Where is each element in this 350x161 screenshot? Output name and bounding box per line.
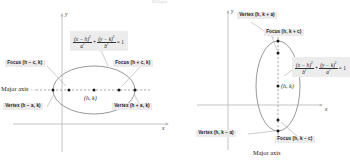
right-eq-term2: (y − k)2 a2 [319,62,337,75]
left-eq-term1: (x − h)2 a2 [73,36,92,49]
leader-focus-left [47,66,66,86]
leader-equation-right [284,70,292,76]
left-eq-term1-denominator: a2 [73,43,92,49]
top-vertex-point [277,40,280,43]
top-focus-point [277,52,280,55]
right-vertex-label: Vertex (h + a, k) [112,103,152,110]
left-vertex-point [52,89,55,92]
leader-vertex-left [47,94,54,107]
left-y-axis-label: y [65,12,67,18]
left-eq-term2: (y − k)2 b2 [97,36,115,49]
right-center-point [277,85,280,88]
top-focus-label: Focus (h, k + c) [264,29,304,36]
bottom-vertex-label: Vertex (h, k − a) [196,130,236,137]
right-y-axis-label: y [231,9,233,15]
left-focus-point [68,89,71,92]
leader-focus-top [272,37,277,50]
right-eq-equals: = 1 [338,66,347,71]
left-y-axis-arrow [60,13,63,16]
left-focus-label: Focus (h − c, k) [5,60,45,67]
top-clipped-heading: Ellipse [152,0,168,4]
top-vertex-label: Vertex (h, k + a) [237,12,277,19]
right-eq-term2-denominator: a2 [319,69,337,75]
bottom-focus-label: Focus (h, k − c) [275,136,315,143]
right-eq-term1-denominator: b2 [295,69,314,75]
right-x-axis-arrow [320,103,323,106]
right-vertex-point [134,89,137,92]
left-x-axis-label: x [162,126,164,132]
bottom-vertex-point [277,130,280,133]
leader-vertex-bottom [248,131,275,134]
right-eq-term1: (x − h)2 b2 [295,62,314,75]
left-eq-term2-denominator: b2 [97,43,115,49]
left-ellipse-equation: (x − h)2 a2 + (y − k)2 b2 = 1 [70,31,128,51]
left-major-axis-label: Major axis [1,86,29,92]
left-eq-equals: = 1 [116,40,125,45]
right-x-axis-label: x [325,107,327,113]
right-leader-lines [248,22,298,137]
right-center-label: (h, k) [281,83,294,89]
left-center-label: (h, k) [84,95,97,101]
bottom-focus-point [277,119,280,122]
right-focus-point [118,89,121,92]
right-major-axis-label: Major axis [253,150,281,156]
left-center-point [93,89,96,92]
right-y-axis-arrow [226,10,229,13]
left-vertex-label: Vertex (h − a, k) [3,103,43,110]
left-x-axis-arrow [166,122,169,125]
right-panel-axes [197,10,323,150]
leader-focus-right [122,66,141,86]
right-key-points [277,40,280,133]
right-focus-label: Focus (h + c, k) [113,60,153,67]
right-ellipse-equation: (x − h)2 b2 + (y − k)2 a2 = 1 [292,57,350,77]
